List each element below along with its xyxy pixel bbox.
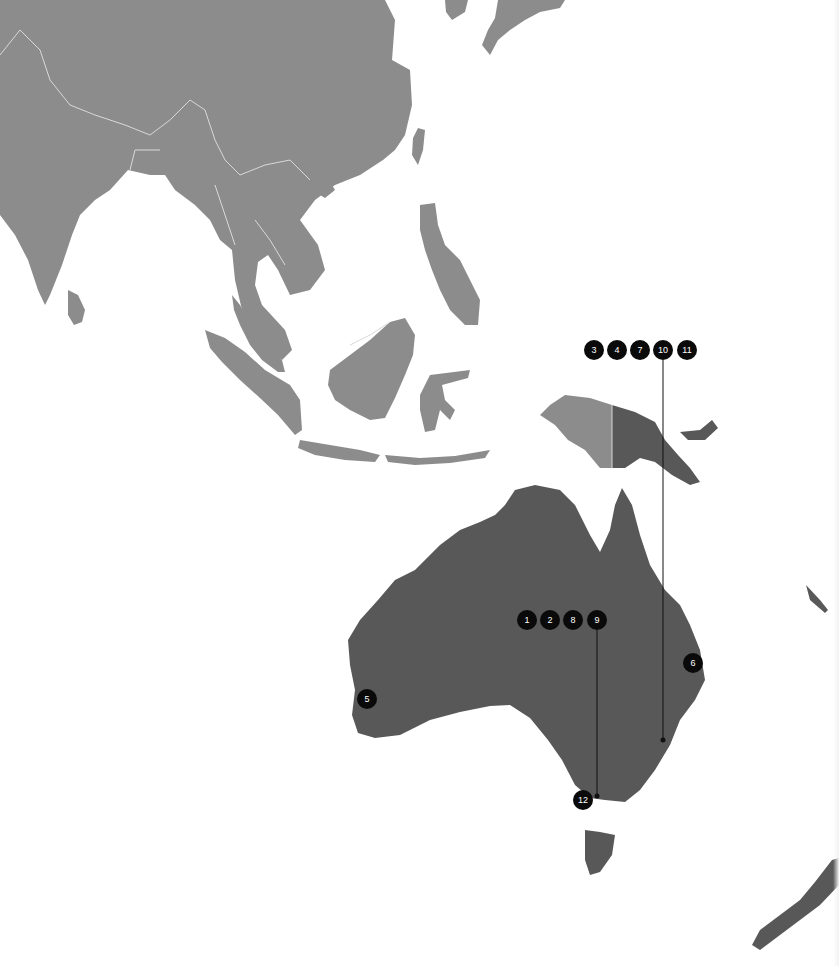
landmass-papua-new-guinea <box>612 405 700 485</box>
right-edge-shadow <box>833 0 839 966</box>
landmass-philippines <box>420 203 480 325</box>
landmass-lesser-sunda <box>385 450 490 465</box>
map-marker-3[interactable]: 3 <box>584 340 604 360</box>
map-marker-1[interactable]: 1 <box>517 610 537 630</box>
landmass-java <box>298 440 380 462</box>
landmass-korea <box>445 0 468 20</box>
landmass-vanuatu <box>806 585 828 613</box>
map-marker-5[interactable]: 5 <box>357 689 377 709</box>
landmass-sulawesi <box>420 370 470 432</box>
map-marker-8[interactable]: 8 <box>563 610 583 630</box>
landmass-west-papua <box>540 395 612 468</box>
landmass-japan <box>482 0 565 55</box>
landmass-tasmania <box>585 830 615 875</box>
landmass-mainland-asia <box>0 0 412 360</box>
leader-endpoint-group-png <box>661 738 666 743</box>
map-marker-9[interactable]: 9 <box>587 610 607 630</box>
map-marker-12[interactable]: 12 <box>573 790 593 810</box>
landmass-australia <box>348 485 705 802</box>
map-marker-7[interactable]: 7 <box>630 340 650 360</box>
landmass-new-zealand-south <box>752 858 839 950</box>
map-canvas <box>0 0 839 966</box>
leader-endpoint-group-central-au <box>595 794 600 799</box>
landmass-taiwan <box>412 128 425 165</box>
map-marker-6[interactable]: 6 <box>683 653 703 673</box>
map-marker-10[interactable]: 10 <box>653 340 673 360</box>
map-marker-11[interactable]: 11 <box>677 340 697 360</box>
map-marker-4[interactable]: 4 <box>607 340 627 360</box>
landmass-new-britain <box>680 420 718 440</box>
landmass-sri-lanka <box>68 290 85 325</box>
map-marker-2[interactable]: 2 <box>540 610 560 630</box>
landmass-borneo <box>328 318 415 420</box>
